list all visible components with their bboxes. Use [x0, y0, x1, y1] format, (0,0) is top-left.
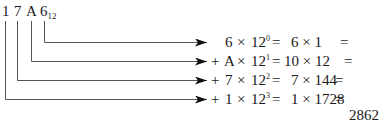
row-equals-2: = [340, 33, 348, 51]
row-sign: + [211, 71, 219, 89]
total-sum: 2862 [349, 106, 379, 123]
row-power: 122 [251, 71, 270, 89]
connector-digit-3 [32, 21, 208, 62]
row-equals: = [272, 90, 280, 108]
row-exponent: 3 [266, 91, 270, 100]
row-equals-2: = [335, 90, 343, 108]
connector-digit-1 [6, 21, 208, 100]
row-base: 12 [251, 91, 266, 107]
row-equals: = [272, 33, 280, 51]
row-equals-2: = [335, 71, 343, 89]
row-digit: A [224, 52, 235, 70]
row-expanded: 7 × 144 [291, 71, 337, 89]
connector-digit-4 [45, 21, 208, 43]
row-times: × [237, 33, 245, 51]
connector-digit-2 [18, 21, 208, 81]
row-equals-2: = [344, 52, 352, 70]
row-digit: 6 [225, 33, 233, 51]
row-sign: + [211, 52, 219, 70]
row-times: × [237, 71, 245, 89]
row-expanded: 10 × 12 [284, 52, 330, 70]
row-base: 12 [251, 34, 266, 50]
row-digit: 1 [225, 90, 233, 108]
row-exponent: 2 [266, 72, 270, 81]
row-equals: = [272, 71, 280, 89]
row-base: 12 [251, 72, 266, 88]
row-times: × [237, 90, 245, 108]
row-exponent: 0 [266, 34, 270, 43]
row-exponent: 1 [266, 53, 270, 62]
row-power: 120 [251, 33, 270, 51]
row-expanded: 6 × 1 [291, 33, 322, 51]
row-digit: 7 [225, 71, 233, 89]
row-sign: + [211, 90, 219, 108]
row-equals: = [272, 52, 280, 70]
row-times: × [237, 52, 245, 70]
row-power: 123 [251, 90, 270, 108]
row-power: 121 [251, 52, 270, 70]
row-base: 12 [251, 53, 266, 69]
